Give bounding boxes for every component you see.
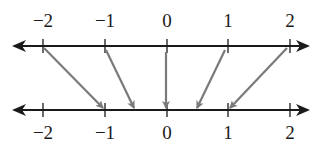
top-number-line: −2 −1 0 1 2 <box>12 10 310 53</box>
bottom-label-neg1: −1 <box>95 122 115 143</box>
top-label-neg2: −2 <box>33 10 53 31</box>
top-label-2: 2 <box>285 10 295 31</box>
top-label-1: 1 <box>223 10 233 31</box>
bottom-label-neg2: −2 <box>33 122 53 143</box>
top-label-0: 0 <box>162 10 172 31</box>
mapping-arrow-neg2 <box>44 48 103 108</box>
bottom-label-0: 0 <box>162 122 172 143</box>
mapping-arrow-2 <box>230 48 287 108</box>
bottom-label-1: 1 <box>223 122 233 143</box>
bottom-label-2: 2 <box>285 122 295 143</box>
mapping-arrows <box>44 48 287 108</box>
bottom-number-line: −2 −1 0 1 2 <box>12 103 310 143</box>
mapping-diagram: −2 −1 0 1 2 −2 −1 0 1 2 <box>0 0 315 148</box>
mapping-arrow-neg1 <box>106 50 134 108</box>
top-label-neg1: −1 <box>95 10 115 31</box>
mapping-arrow-1 <box>197 50 225 108</box>
